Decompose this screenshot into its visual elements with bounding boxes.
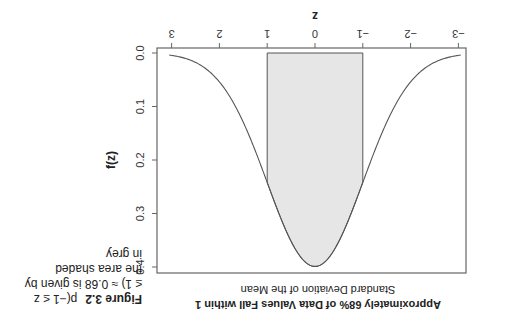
shaded-region	[267, 53, 363, 266]
caption-line-3: the area shaded	[55, 262, 142, 276]
x-tick-label: 1	[264, 28, 270, 40]
x-axis-title: z	[312, 9, 318, 23]
y-tick-label: 0.1	[134, 99, 146, 114]
x-tick-label: −3	[452, 28, 465, 40]
y-axis: 0.00.10.20.30.4	[134, 45, 157, 274]
caption-line-2: ≤ 1) ≈ 0.68 is given by	[25, 277, 142, 291]
y-tick-label: 0.2	[134, 152, 146, 167]
x-tick-label: 3	[169, 28, 175, 40]
figure-caption: Figure 3.2p(−1 ≤ z ≤ 1) ≈ 0.68 is given …	[25, 247, 142, 306]
chart-title-line-1: Approximately 68% of Data Values Fall wi…	[195, 299, 441, 311]
y-axis-title: f(z)	[104, 151, 118, 169]
normal-distribution-chart: −3−2−10123 0.00.10.20.30.4 z f(z) Approx…	[0, 0, 530, 325]
shaded-area-68-percent	[267, 53, 363, 266]
caption-line-4: in grey	[106, 247, 142, 261]
figure-rotated-180: −3−2−10123 0.00.10.20.30.4 z f(z) Approx…	[0, 0, 530, 325]
caption-text-1: p(−1 ≤ z	[34, 292, 78, 306]
x-tick-label: −2	[404, 28, 417, 40]
caption-line-1: Figure 3.2p(−1 ≤ z	[34, 292, 142, 306]
x-axis: −3−2−10123	[169, 28, 465, 48]
x-tick-label: 2	[216, 28, 222, 40]
y-tick-label: 0.3	[134, 206, 146, 221]
x-tick-label: 0	[312, 28, 318, 40]
y-tick-label: 0.0	[134, 45, 146, 60]
caption-label: Figure 3.2	[85, 292, 142, 306]
x-tick-label: −1	[357, 28, 370, 40]
chart-title-line-2: Standard Deviation of the Mean	[241, 284, 396, 296]
